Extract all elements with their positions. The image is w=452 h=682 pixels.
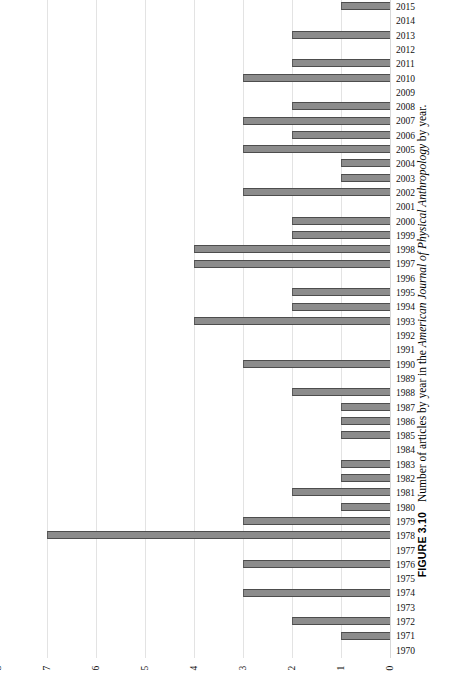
bar-series-group	[0, 0, 392, 658]
bar-row	[0, 257, 392, 271]
bar-row	[0, 43, 392, 57]
bar-row	[0, 200, 392, 214]
bar-1990	[243, 360, 390, 368]
bar-2000	[292, 217, 390, 225]
x-tick-3: 3	[233, 660, 253, 676]
caption-text-post: by year.	[416, 105, 428, 144]
bar-row	[0, 443, 392, 457]
bar-1988	[292, 388, 390, 396]
bar-row	[0, 372, 392, 386]
bar-row	[0, 515, 392, 529]
bar-row	[0, 458, 392, 472]
bar-row	[0, 586, 392, 600]
bar-row	[0, 486, 392, 500]
bar-2007	[243, 117, 390, 125]
bar-2005	[243, 145, 390, 153]
bar-row	[0, 14, 392, 28]
x-tick-4: 4	[184, 660, 204, 676]
bar-1974	[243, 589, 390, 597]
bar-row	[0, 172, 392, 186]
bar-1983	[341, 460, 390, 468]
figure-number: FIGURE 3.10	[416, 512, 428, 577]
bar-2015	[341, 2, 390, 10]
bar-row	[0, 415, 392, 429]
bar-row	[0, 157, 392, 171]
bar-row	[0, 143, 392, 157]
bar-1985	[341, 431, 390, 439]
bar-1978	[47, 531, 390, 539]
bar-row	[0, 229, 392, 243]
bar-2011	[292, 59, 390, 67]
bar-row	[0, 501, 392, 515]
bar-2004	[341, 159, 390, 167]
bar-row	[0, 0, 392, 14]
bar-row	[0, 601, 392, 615]
bar-1999	[292, 231, 390, 239]
bar-1986	[341, 417, 390, 425]
x-tick-7: 7	[37, 660, 57, 676]
bar-1987	[341, 403, 390, 411]
bar-2006	[292, 131, 390, 139]
bar-2002	[243, 188, 390, 196]
bar-1972	[292, 617, 390, 625]
bar-row	[0, 429, 392, 443]
bar-row	[0, 529, 392, 543]
bar-row	[0, 315, 392, 329]
bar-row	[0, 114, 392, 128]
x-tick-6: 6	[86, 660, 106, 676]
bar-1971	[341, 632, 390, 640]
bar-2003	[341, 174, 390, 182]
bar-1981	[292, 488, 390, 496]
bar-row	[0, 401, 392, 415]
bar-1994	[292, 303, 390, 311]
x-tick-8: 8	[0, 660, 8, 676]
bar-row	[0, 544, 392, 558]
bar-row	[0, 215, 392, 229]
bar-row	[0, 343, 392, 357]
bar-row	[0, 243, 392, 257]
figure-caption: FIGURE 3.10Number of articles by year in…	[392, 0, 452, 682]
bar-row	[0, 644, 392, 658]
bar-row	[0, 57, 392, 71]
bar-row	[0, 300, 392, 314]
bar-row	[0, 272, 392, 286]
bar-row	[0, 386, 392, 400]
bar-2010	[243, 74, 390, 82]
x-tick-5: 5	[135, 660, 155, 676]
bar-1982	[341, 474, 390, 482]
bar-row	[0, 329, 392, 343]
bar-row	[0, 615, 392, 629]
bar-row	[0, 100, 392, 114]
x-tick-1: 1	[331, 660, 351, 676]
bar-row	[0, 86, 392, 100]
bar-row	[0, 286, 392, 300]
bar-row	[0, 629, 392, 643]
bar-row	[0, 129, 392, 143]
bar-1995	[292, 288, 390, 296]
bar-1976	[243, 560, 390, 568]
bar-row	[0, 572, 392, 586]
bar-1998	[194, 245, 390, 253]
bar-1979	[243, 517, 390, 525]
bar-row	[0, 472, 392, 486]
bar-row	[0, 358, 392, 372]
bar-row	[0, 29, 392, 43]
caption-text-pre: Number of articles by year in the	[416, 347, 428, 502]
bar-1980	[341, 503, 390, 511]
bar-2013	[292, 31, 390, 39]
figure-container: 2015201420132012201120102009200820072006…	[0, 0, 452, 682]
bar-row	[0, 558, 392, 572]
bar-row	[0, 72, 392, 86]
bar-1993	[194, 317, 390, 325]
x-axis-tick-labels: 876543210	[0, 658, 392, 682]
caption-journal-name: American Journal of Physical Anthropolog…	[416, 144, 428, 347]
x-tick-2: 2	[282, 660, 302, 676]
bar-chart-plot-area	[0, 0, 392, 658]
bar-2008	[292, 102, 390, 110]
bar-1997	[194, 260, 390, 268]
bar-row	[0, 186, 392, 200]
